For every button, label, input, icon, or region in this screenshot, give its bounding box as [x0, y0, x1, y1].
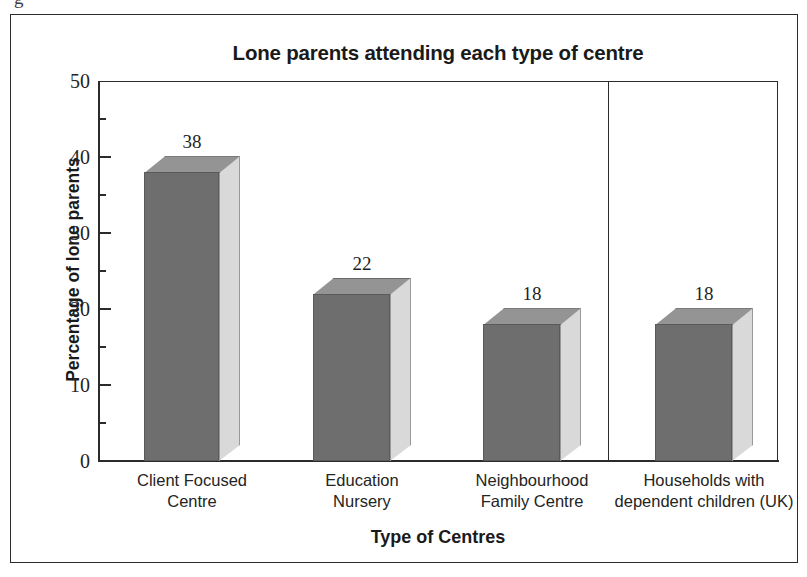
bar-side-face: [390, 278, 411, 461]
chart-title: Lone parents attending each type of cent…: [98, 41, 778, 65]
bar: [655, 308, 753, 461]
x-axis-category-label: Households withdependent children (UK): [604, 470, 804, 512]
bar-front-face: [483, 324, 560, 461]
x-label-line: Neighbourhood: [432, 470, 632, 491]
x-label-line: dependent children (UK): [604, 491, 804, 512]
y-tick-minor-35: [98, 194, 106, 196]
x-axis-category-label: NeighbourhoodFamily Centre: [432, 470, 632, 512]
y-axis-tick-labels: 50403020100: [38, 0, 90, 577]
bar-value-label: 38: [125, 132, 260, 151]
y-tick-label-50: 50: [46, 71, 90, 91]
x-label-line: Households with: [604, 470, 804, 491]
y-tick-label-10: 10: [46, 375, 90, 395]
bar: [144, 156, 240, 461]
bar-front-face: [655, 324, 732, 461]
x-axis-title: Type of Centres: [98, 527, 778, 548]
bar-front-face: [313, 294, 390, 461]
bar-value-label: 18: [464, 284, 601, 303]
y-tick-major-30: [98, 232, 111, 234]
y-tick-minor-25: [98, 270, 106, 272]
bar-value-label: 22: [294, 254, 431, 273]
x-label-line: Family Centre: [432, 491, 632, 512]
y-tick-major-40: [98, 156, 111, 158]
bar-front-face: [144, 172, 219, 461]
y-tick-label-20: 20: [46, 299, 90, 319]
bar-side-face: [560, 308, 581, 461]
y-tick-label-0: 0: [46, 451, 90, 471]
y-tick-major-20: [98, 308, 111, 310]
bar-side-face: [219, 156, 240, 461]
bar-side-face: [732, 308, 753, 461]
y-tick-label-30: 30: [46, 223, 90, 243]
bar: [313, 278, 411, 461]
y-tick-label-40: 40: [46, 147, 90, 167]
stray-glyph: g: [14, 0, 24, 9]
bar-value-label: 18: [636, 284, 773, 303]
y-tick-minor-5: [98, 422, 106, 424]
bar: [483, 308, 581, 461]
y-tick-minor-45: [98, 118, 106, 120]
y-tick-major-10: [98, 384, 111, 386]
y-tick-minor-15: [98, 346, 106, 348]
category-divider: [608, 81, 609, 461]
